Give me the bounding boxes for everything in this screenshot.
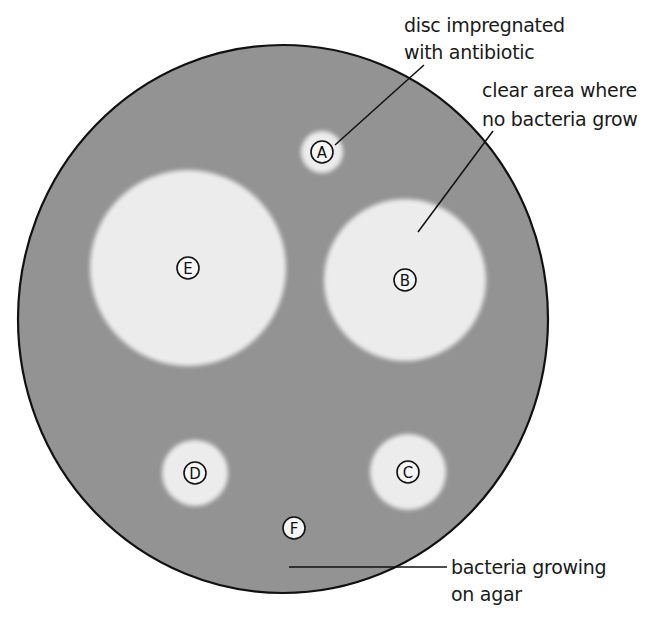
disc-c: C [397, 461, 419, 483]
annotation-disc: disc impregnated with antibiotic [404, 12, 565, 66]
disc-e: E [177, 257, 199, 279]
annotation-bacteria-line1: bacteria growing [451, 554, 606, 581]
annotation-bacteria: bacteria growing on agar [451, 554, 606, 608]
annotation-clear-area-line1: clear area where [482, 76, 638, 105]
disc-b: B [394, 269, 416, 291]
annotation-clear-area-line2: no bacteria grow [482, 105, 638, 134]
disc-label-b: B [400, 272, 410, 290]
annotation-bacteria-line2: on agar [451, 581, 606, 608]
annotation-disc-line2: with antibiotic [404, 39, 565, 66]
annotation-clear-area: clear area where no bacteria grow [482, 76, 638, 134]
disc-label-e: E [183, 260, 192, 278]
disc-label-a: A [317, 144, 328, 162]
disc-a: A [311, 141, 333, 163]
annotation-disc-line1: disc impregnated [404, 12, 565, 39]
disc-label-c: C [403, 464, 413, 482]
disc-label-d: D [189, 465, 201, 483]
antibiotic-disc-diagram: A B C D E F disc impregnated with antibi… [0, 0, 665, 622]
disc-d: D [184, 462, 206, 484]
disc-label-f: F [290, 520, 299, 538]
disc-f: F [283, 517, 305, 539]
